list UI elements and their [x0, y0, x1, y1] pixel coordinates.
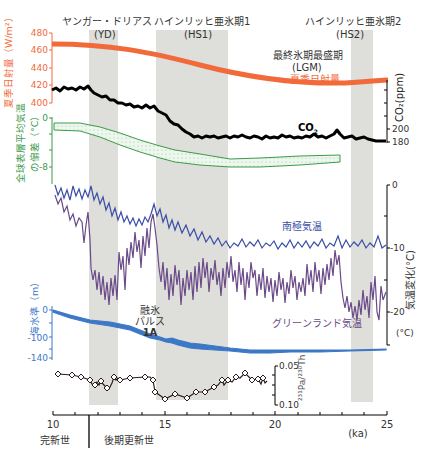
svg-text:15: 15: [159, 419, 172, 430]
pa-th-axis-label: ²³¹Pa/²³⁰Th: [297, 355, 307, 401]
temp-axis: [384, 185, 390, 345]
svg-text:460: 460: [31, 45, 48, 55]
band-yd-label: ヤンガー・ドリアス: [62, 16, 152, 27]
band-hs1-short: (HS1): [184, 29, 212, 40]
late-pleistocene-label: 後期更新世: [104, 434, 154, 446]
insolation-axis-label: 夏季日射量（W/m²）: [3, 12, 14, 108]
svg-text:-20: -20: [390, 307, 405, 317]
svg-text:200: 200: [392, 124, 409, 134]
antarctic-label: 南極気温: [282, 220, 322, 232]
svg-text:(°C): (°C): [396, 328, 414, 338]
sea-level-axis-label: 海水準（m）: [29, 277, 40, 336]
svg-text:-8: -8: [39, 162, 48, 172]
band-hs1-label: ハインリッヒ亜氷期1: [154, 15, 250, 27]
insolation-label: 夏季日射量: [290, 74, 340, 85]
co2-axis: [384, 80, 390, 143]
band-hs2-label: ハインリッヒ亜氷期2: [305, 15, 401, 27]
svg-text:融氷: 融氷: [140, 304, 160, 316]
x-tick-labels: 10 15 20 25 (ka): [47, 419, 394, 439]
svg-text:20: 20: [269, 419, 282, 430]
svg-text:0: 0: [42, 113, 48, 123]
holocene-label: 完新世: [40, 434, 70, 446]
svg-text:25: 25: [381, 419, 394, 430]
svg-text:-10: -10: [390, 243, 405, 253]
svg-text:0: 0: [42, 305, 48, 315]
co2-axis-label: CO₂(ppm): [394, 73, 405, 122]
svg-text:-140: -140: [28, 353, 49, 363]
sea-level-axis: [49, 306, 52, 360]
svg-text:0: 0: [392, 180, 398, 190]
band-hs2-short: (HS2): [336, 29, 364, 40]
svg-text:パルス: パルス: [135, 316, 165, 327]
temp-axis-label: 気温変化(°C): [404, 250, 416, 310]
lgm-short: (LGM): [292, 62, 322, 73]
svg-text:440: 440: [31, 63, 48, 73]
band-yd: [89, 30, 118, 405]
svg-text:180: 180: [392, 137, 409, 147]
gmst-axis-label-2: の偏差（°C）: [29, 111, 40, 172]
pa-th-axis: [272, 366, 278, 405]
svg-text:400: 400: [31, 98, 48, 108]
paleoclimate-chart: ヤンガー・ドリアス (YD) ハインリッヒ亜氷期1 (HS1) ハインリッヒ亜氷…: [0, 0, 424, 458]
gmst-axis-label-1: 全球表層平均気温: [15, 103, 26, 183]
lgm-label: 最終氷期最盛期: [273, 49, 343, 61]
greenland-label: グリーンランド気温: [272, 317, 362, 329]
svg-text:1A: 1A: [143, 327, 158, 338]
svg-text:10: 10: [47, 419, 60, 430]
x-unit-label: (ka): [348, 428, 368, 439]
gmst-ticks: 0 -8: [39, 113, 48, 172]
insolation-axis: [49, 33, 52, 103]
co2-ticks: 200 180: [392, 124, 409, 147]
epoch-labels: 完新世 後期更新世: [40, 434, 154, 446]
svg-text:420: 420: [31, 80, 48, 90]
insolation-ticks: 480 460 440 420 400: [31, 28, 48, 108]
svg-text:480: 480: [31, 28, 48, 38]
gmst-axis: [49, 117, 52, 184]
co2-label: CO2: [298, 122, 318, 135]
band-hs2: [351, 30, 373, 402]
band-yd-short: (YD): [94, 29, 116, 40]
